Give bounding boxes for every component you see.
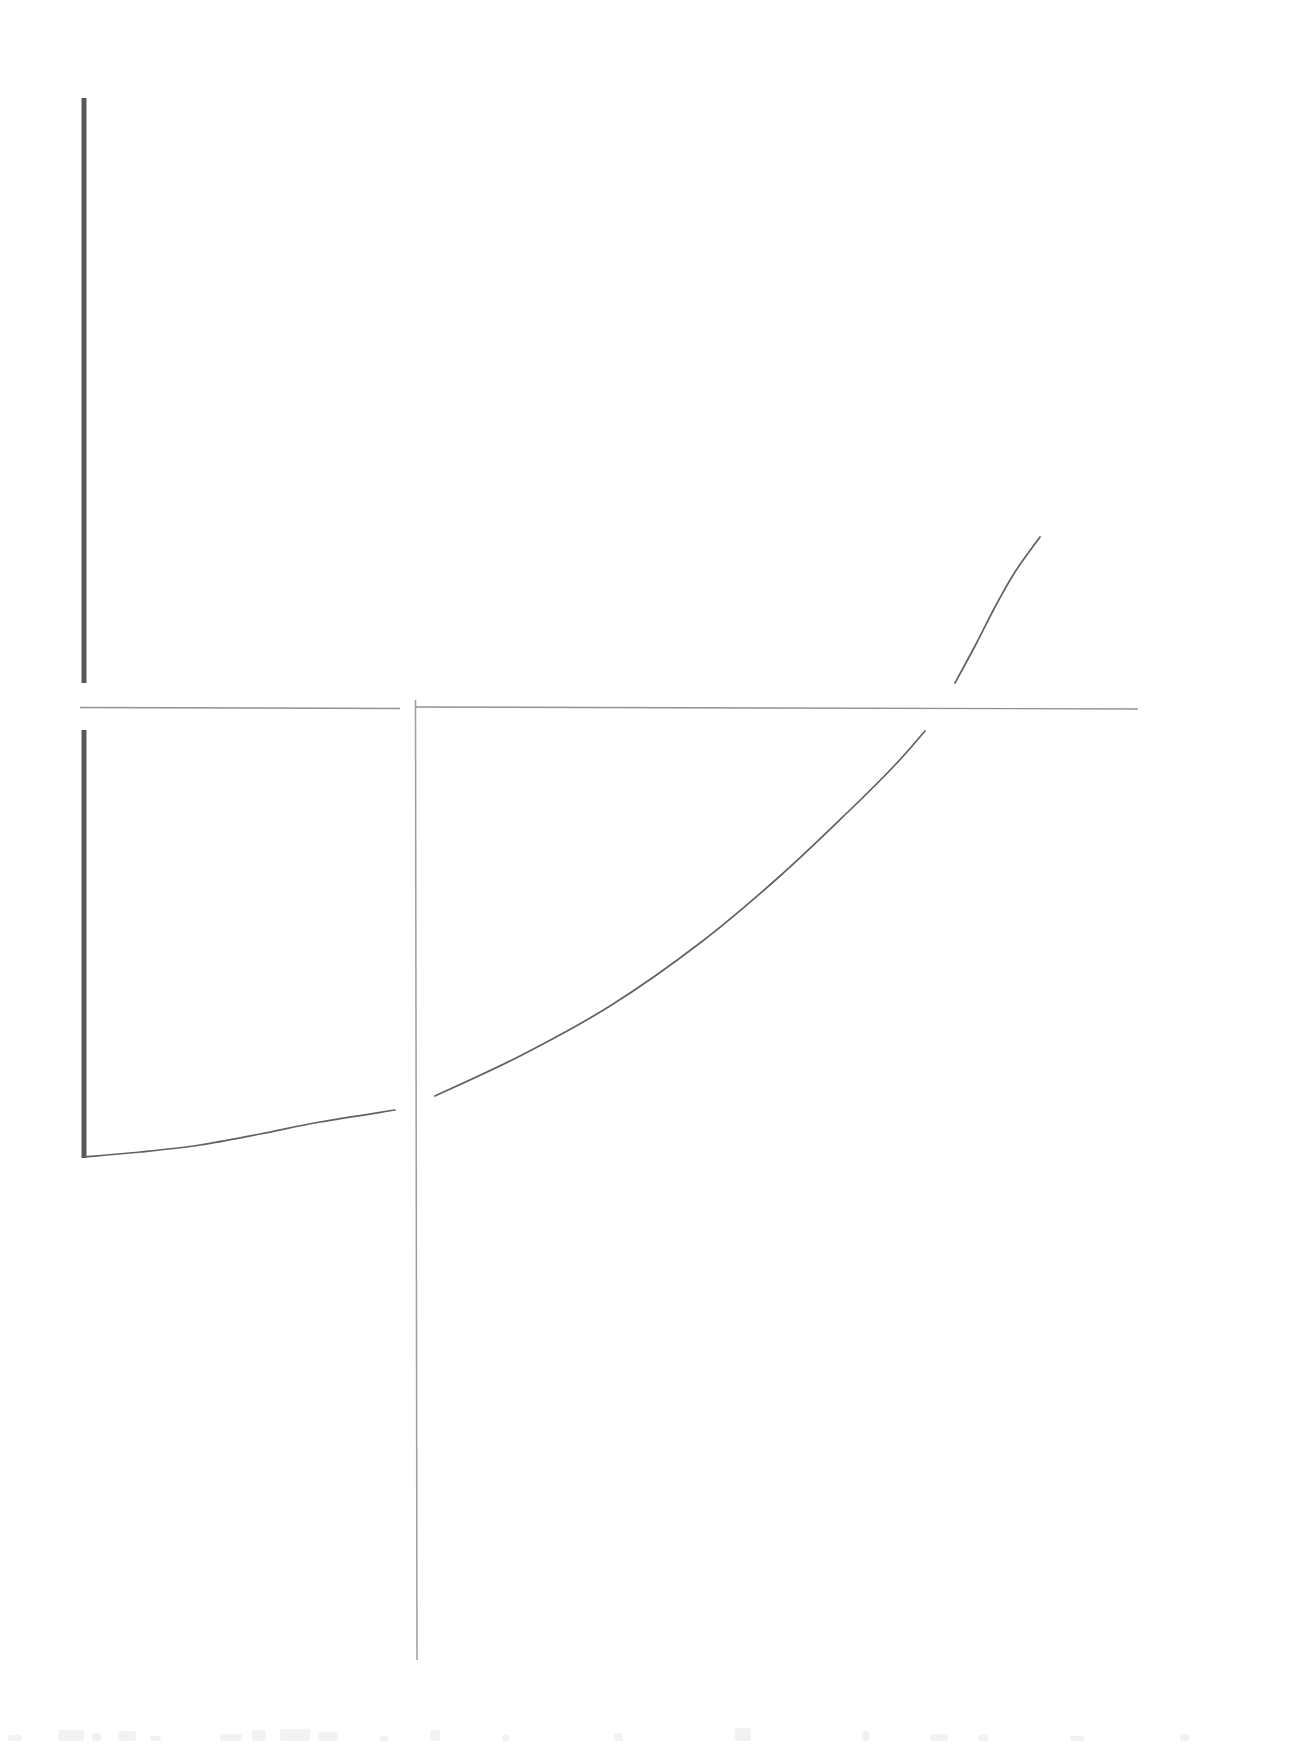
upper-panel-horizontal-axis bbox=[80, 708, 400, 709]
scanned-page bbox=[0, 0, 1305, 1748]
upper-panel-axes bbox=[80, 98, 400, 709]
curve-upper-right-fragment bbox=[955, 537, 1040, 683]
data-curves bbox=[84, 537, 1040, 1157]
curve-lower-left-fragment bbox=[84, 1110, 395, 1157]
curve-main bbox=[435, 731, 925, 1096]
lower-panel-horizontal-axis bbox=[415, 707, 1138, 709]
bottom-edge-ink-residue bbox=[8, 1728, 1189, 1741]
lower-panel-tall-vertical-axis bbox=[416, 700, 418, 1660]
lower-panel-axes bbox=[84, 700, 1138, 1660]
figure-canvas bbox=[0, 0, 1305, 1748]
